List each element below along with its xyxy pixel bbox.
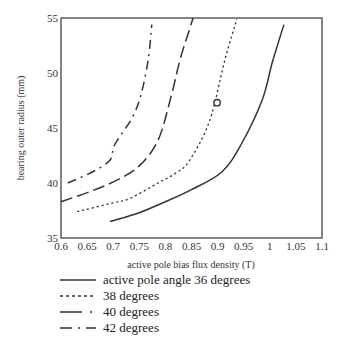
legend-item-40deg: 40 degrees <box>60 304 250 320</box>
solid-line-icon <box>60 275 96 285</box>
x-tick-label: 1 <box>267 240 273 252</box>
series-lines <box>61 18 284 222</box>
x-tick-label: 0.65 <box>77 240 97 252</box>
legend-item-36deg: active pole angle 36 degrees <box>60 272 250 288</box>
open-circle-marker <box>214 100 220 106</box>
y-axis-label: bearing outer radius (mm) <box>15 76 27 181</box>
chart-canvas: 3540455055 0.60.650.70.750.80.850.90.951… <box>0 0 352 270</box>
dash-dot-line-icon <box>60 323 96 333</box>
legend-label: active pole angle 36 degrees <box>103 272 250 288</box>
legend-item-42deg: 42 degrees <box>60 320 250 336</box>
x-tick-label: 0.95 <box>234 240 254 252</box>
legend-label: 38 degrees <box>103 288 159 304</box>
legend: active pole angle 36 degrees 38 degrees … <box>60 272 250 336</box>
x-tick-label: 0.6 <box>54 240 68 252</box>
y-axis-ticks: 3540455055 <box>47 12 59 244</box>
plot-border <box>61 18 322 238</box>
series-line-solid <box>110 25 284 222</box>
legend-item-38deg: 38 degrees <box>60 288 250 304</box>
plot-area <box>61 18 322 238</box>
x-axis-ticks: 0.60.650.70.750.80.850.90.9511.051.1 <box>54 240 329 252</box>
x-tick-label: 0.8 <box>159 240 173 252</box>
legend-label: 40 degrees <box>103 304 159 320</box>
data-markers <box>214 100 220 106</box>
x-tick-label: 1.1 <box>315 240 329 252</box>
series-line-dashed <box>61 18 193 202</box>
series-line-dotted <box>77 19 237 212</box>
x-tick-label: 1.05 <box>286 240 306 252</box>
x-tick-label: 0.7 <box>106 240 120 252</box>
x-axis-label: active pole bias flux density (T) <box>127 259 254 270</box>
y-tick-label: 55 <box>47 12 59 24</box>
dotted-line-icon <box>60 291 96 301</box>
x-tick-label: 0.9 <box>211 240 225 252</box>
x-tick-label: 0.85 <box>182 240 202 252</box>
y-tick-label: 50 <box>47 67 59 79</box>
series-line-dash-dot <box>68 25 152 183</box>
y-tick-label: 45 <box>47 122 59 134</box>
x-tick-label: 0.75 <box>130 240 150 252</box>
dashed-line-icon <box>60 307 96 317</box>
y-tick-label: 40 <box>47 177 59 189</box>
legend-label: 42 degrees <box>103 320 159 336</box>
